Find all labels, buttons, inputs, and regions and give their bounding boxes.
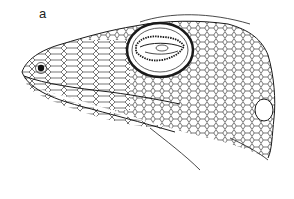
- lizard-head-illustration: [0, 0, 294, 199]
- eye: [127, 23, 193, 77]
- nostril: [38, 65, 44, 71]
- throat-line: [150, 128, 200, 170]
- figure-panel: a: [0, 0, 294, 199]
- ear-opening: [255, 99, 273, 121]
